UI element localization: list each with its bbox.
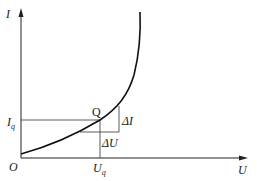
delta-i-label: ΔI	[122, 115, 133, 127]
x-axis-label: U	[238, 164, 247, 176]
characteristic-curve	[21, 12, 140, 154]
uq-subscript: q	[102, 168, 106, 177]
diagram-graphics	[0, 0, 257, 181]
point-q-label: Q	[92, 106, 101, 118]
origin-label: O	[9, 161, 18, 173]
iq-label: Iq	[7, 116, 15, 131]
iu-characteristic-diagram: I U O Q Iq Uq ΔI ΔU	[0, 0, 257, 181]
uq-symbol: U	[93, 161, 102, 175]
y-axis-label: I	[6, 8, 10, 20]
uq-label: Uq	[93, 162, 106, 177]
x-axis-arrow-icon	[239, 156, 248, 161]
y-axis-arrow-icon	[19, 8, 24, 17]
iq-subscript: q	[11, 122, 15, 131]
delta-u-label: ΔU	[102, 137, 118, 149]
